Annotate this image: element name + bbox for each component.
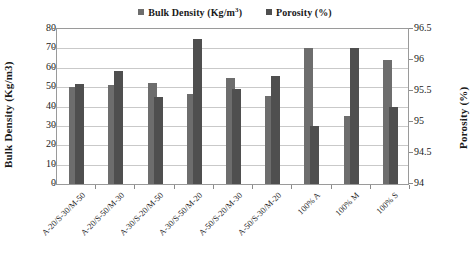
bar-porosity xyxy=(232,89,241,184)
bar-group xyxy=(135,29,174,184)
legend-label-porosity: Porosity (%) xyxy=(276,7,332,18)
legend-swatch-porosity xyxy=(266,9,272,15)
x-axis-tickmark xyxy=(134,185,135,189)
y-axis-left-tick-label: 20 xyxy=(16,139,56,149)
y-axis-right-tickmark xyxy=(409,59,413,60)
y-axis-left-tick-label: 0 xyxy=(16,178,56,188)
y-axis-left-title: Bulk Density (Kg/m3) xyxy=(2,40,14,190)
legend-label-bulk-density-suffix: ) xyxy=(239,7,242,18)
legend-item-porosity: Porosity (%) xyxy=(266,7,332,18)
bar-group xyxy=(371,29,410,184)
bar-chart: Bulk Density (Kg/m3) Porosity (%) Bulk D… xyxy=(0,0,470,268)
bar-porosity xyxy=(75,84,84,184)
y-axis-left-tickmark xyxy=(52,183,56,184)
y-axis-left-tickmark xyxy=(52,144,56,145)
y-axis-left-tickmark xyxy=(52,67,56,68)
y-axis-left-tick-label: 40 xyxy=(16,101,56,111)
bar-group xyxy=(96,29,135,184)
y-axis-right-tickmark xyxy=(409,152,413,153)
y-axis-right-tickmark xyxy=(409,183,413,184)
chart-legend: Bulk Density (Kg/m3) Porosity (%) xyxy=(0,6,470,18)
bar-group xyxy=(253,29,292,184)
y-axis-right-tick-label: 95.5 xyxy=(414,85,460,95)
x-axis-tickmark xyxy=(174,185,175,189)
y-axis-left-tick-label: 80 xyxy=(16,23,56,33)
x-axis-tickmark xyxy=(370,185,371,189)
bar-porosity xyxy=(310,126,319,184)
bar-porosity xyxy=(193,39,202,184)
bar-series-container xyxy=(57,29,408,184)
legend-label-bulk-density: Bulk Density (Kg/m3) xyxy=(148,6,242,18)
x-axis-tickmark xyxy=(252,185,253,189)
y-axis-left-tick-label: 10 xyxy=(16,159,56,169)
y-axis-left-tickmark xyxy=(52,106,56,107)
legend-label-bulk-density-text: Bulk Density (Kg/m xyxy=(148,7,235,18)
bar-porosity xyxy=(114,71,123,184)
y-axis-left-tickmark xyxy=(52,125,56,126)
legend-item-bulk-density: Bulk Density (Kg/m3) xyxy=(138,6,242,18)
bar-porosity xyxy=(154,97,163,184)
y-axis-right-tickmark xyxy=(409,90,413,91)
y-axis-right-tickmark xyxy=(409,28,413,29)
y-axis-right-tick-label: 96 xyxy=(414,54,460,64)
y-axis-right-tick-label: 94.5 xyxy=(414,147,460,157)
legend-swatch-bulk-density xyxy=(138,9,144,15)
y-axis-right-tick-label: 95 xyxy=(414,116,460,126)
y-axis-left-tickmark xyxy=(52,28,56,29)
x-axis-tickmark xyxy=(409,185,410,189)
y-axis-left-tickmark xyxy=(52,86,56,87)
bar-porosity xyxy=(350,48,359,184)
y-axis-left-tick-label: 60 xyxy=(16,62,56,72)
bar-porosity xyxy=(389,107,398,185)
y-axis-left-tickmark xyxy=(52,164,56,165)
bar-porosity xyxy=(271,76,280,185)
x-axis-tickmark xyxy=(331,185,332,189)
y-axis-left-tickmark xyxy=(52,47,56,48)
x-axis-tickmark xyxy=(95,185,96,189)
bar-group xyxy=(175,29,214,184)
y-axis-right-tick-label: 96.5 xyxy=(414,23,460,33)
y-axis-right-tickmark xyxy=(409,121,413,122)
y-axis-left-tick-label: 50 xyxy=(16,81,56,91)
bar-group xyxy=(292,29,331,184)
x-axis-tickmark xyxy=(213,185,214,189)
x-axis-tickmark xyxy=(291,185,292,189)
y-axis-left-tick-label: 30 xyxy=(16,120,56,130)
bar-group xyxy=(214,29,253,184)
gridline xyxy=(57,184,408,185)
y-axis-left-tick-label: 70 xyxy=(16,42,56,52)
bar-group xyxy=(332,29,371,184)
bar-group xyxy=(57,29,96,184)
y-axis-right-tick-label: 94 xyxy=(414,178,460,188)
plot-area xyxy=(56,28,409,185)
